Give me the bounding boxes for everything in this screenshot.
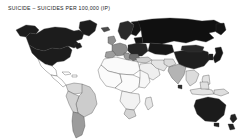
region-south-africa [124, 109, 136, 119]
region-middle-america [38, 59, 77, 87]
region-oceania [194, 97, 237, 130]
region-asia [168, 45, 229, 96]
region-southern-africa [120, 91, 140, 110]
region-british-isles [108, 36, 116, 45]
region-iceland [101, 27, 110, 32]
region-scandinavia [118, 21, 134, 40]
page-title: SUICIDE – SUICIDES PER 100,000 (IP) [8, 5, 110, 11]
region-russia [138, 18, 222, 44]
region-sri-lanka [178, 85, 182, 89]
region-new-zealand-south [228, 124, 235, 130]
world-map-svg [0, 14, 240, 140]
region-india [168, 64, 186, 84]
region-central-america [51, 75, 66, 87]
region-kazakhstan [148, 43, 174, 55]
region-korea [209, 54, 213, 60]
region-new-guinea [214, 89, 229, 96]
region-newfoundland [74, 43, 82, 49]
region-hispaniola [72, 75, 77, 77]
region-australia [194, 97, 226, 122]
region-mongolia [181, 45, 204, 52]
region-madagascar [145, 97, 153, 110]
choropleth-map [0, 14, 240, 140]
region-cuba [62, 72, 71, 75]
region-tasmania [214, 123, 219, 127]
region-southeast-asia [186, 70, 199, 86]
region-borneo [200, 82, 209, 89]
region-north-america [16, 20, 97, 66]
region-south-america [66, 83, 97, 138]
region-turkey [136, 57, 152, 63]
figure-container: SUICIDE – SUICIDES PER 100,000 (IP) [0, 0, 240, 140]
region-japan [213, 47, 223, 63]
region-kamchatka [216, 23, 226, 35]
region-new-zealand [230, 114, 237, 123]
